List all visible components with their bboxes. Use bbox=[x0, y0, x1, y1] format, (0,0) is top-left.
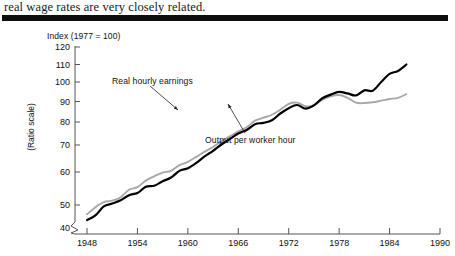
x-tick-label: 1978 bbox=[319, 238, 359, 248]
y-tick-label: 80 bbox=[44, 117, 70, 127]
x-tick-label: 1954 bbox=[117, 238, 157, 248]
x-tick-label: 1966 bbox=[218, 238, 258, 248]
series-label-output-per-worker-hour: Output per worker hour bbox=[205, 135, 296, 145]
y-tick-label: 60 bbox=[44, 167, 70, 177]
y-tick-label: 70 bbox=[44, 140, 70, 150]
y-tick-label: 110 bbox=[44, 60, 70, 70]
y-tick-label: 90 bbox=[44, 97, 70, 107]
x-tick-label: 1972 bbox=[269, 238, 309, 248]
y-tick-label: 50 bbox=[44, 200, 70, 210]
x-tick-label: 1948 bbox=[67, 238, 107, 248]
annotation-leaders bbox=[150, 86, 245, 133]
x-tick-label: 1990 bbox=[420, 238, 455, 248]
y-tick-label: 120 bbox=[44, 42, 70, 52]
series-label-real-hourly-earnings: Real hourly earnings bbox=[112, 76, 193, 86]
y-tick-label: 100 bbox=[44, 77, 70, 87]
y-tick-label: 40 bbox=[44, 223, 70, 233]
x-tick-label: 1984 bbox=[370, 238, 410, 248]
x-tick-label: 1960 bbox=[168, 238, 208, 248]
